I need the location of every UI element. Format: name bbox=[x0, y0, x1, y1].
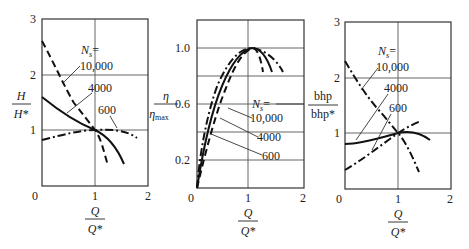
x-tick-2: 2 bbox=[300, 191, 306, 205]
legend-label-10000: 10,000 bbox=[80, 59, 113, 73]
x-label-denominator: Q* bbox=[88, 222, 103, 236]
y-tick-3: 3 bbox=[334, 15, 340, 29]
x-label-numerator: Q bbox=[394, 207, 403, 221]
x-tick-2: 2 bbox=[145, 189, 151, 203]
x-tick-1: 1 bbox=[395, 192, 401, 206]
y-label-denominator: ηmax bbox=[149, 107, 169, 122]
y-label-numerator: bhp bbox=[314, 89, 332, 103]
leader-10000 bbox=[361, 68, 378, 90]
legend-title: Ns= bbox=[377, 44, 396, 60]
legend-label-10000: 10,000 bbox=[250, 111, 283, 125]
leader-600 bbox=[110, 116, 117, 128]
panel-head-ratio: 3 2 1 0 1 2 H H* Q Q* Ns= 10,000 4000 60… bbox=[12, 12, 151, 236]
legend-label-600: 600 bbox=[389, 101, 407, 115]
panel-brake-horsepower-ratio: 3 2 1 0 1 2 bhp bhp* Q Q* Ns= 10,000 400… bbox=[308, 15, 453, 239]
x-tick-1: 1 bbox=[92, 189, 98, 203]
legend-label-4000: 4000 bbox=[384, 81, 408, 95]
x-tick-0: 0 bbox=[32, 189, 38, 203]
y-tick-3: 3 bbox=[30, 12, 36, 26]
y-tick-1: 1 bbox=[30, 123, 36, 137]
x-tick-1: 1 bbox=[245, 191, 251, 205]
y-tick-2: 2 bbox=[30, 68, 36, 82]
x-tick-2: 2 bbox=[447, 192, 453, 206]
y-tick-0.2: 0.2 bbox=[175, 153, 190, 167]
legend-label-600: 600 bbox=[98, 103, 116, 117]
x-label-denominator: Q* bbox=[241, 224, 256, 238]
x-tick-0: 0 bbox=[336, 192, 342, 206]
legend-label-4000: 4000 bbox=[257, 130, 281, 144]
curve-ns-600 bbox=[42, 130, 137, 140]
leader-10000 bbox=[64, 66, 80, 82]
y-tick-1: 1 bbox=[334, 126, 340, 140]
legend-label-10000: 10,000 bbox=[376, 60, 409, 74]
y-label-numerator: H bbox=[16, 89, 27, 103]
y-tick-1.0: 1.0 bbox=[175, 41, 190, 55]
y-label-denominator: bhp* bbox=[311, 107, 335, 121]
leader-600 bbox=[211, 134, 262, 155]
x-label-denominator: Q* bbox=[391, 225, 406, 239]
panel-efficiency-ratio: 1.0 0.6 0.2 0 1 2 η ηmax Q Q* Ns= 10,000… bbox=[149, 20, 306, 238]
x-label-numerator: Q bbox=[91, 204, 100, 218]
y-tick-2: 2 bbox=[334, 71, 340, 85]
x-tick-0: 0 bbox=[188, 191, 194, 205]
pump-characteristic-charts: 3 2 1 0 1 2 H H* Q Q* Ns= 10,000 4000 60… bbox=[0, 0, 469, 249]
x-label-numerator: Q bbox=[244, 206, 253, 220]
legend-title: Ns= bbox=[80, 43, 99, 59]
legend-label-600: 600 bbox=[262, 149, 280, 163]
y-label-denominator: H* bbox=[13, 107, 29, 121]
y-label-numerator: η bbox=[163, 89, 169, 103]
